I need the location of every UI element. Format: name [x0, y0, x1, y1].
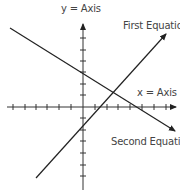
first-equation-label: First Equation	[123, 20, 180, 31]
first-equation-line	[36, 34, 166, 178]
second-equation-label: Second Equation	[111, 136, 180, 147]
y-axis-label: y = Axis	[61, 3, 101, 14]
x-axis-label: x = Axis	[137, 87, 177, 98]
